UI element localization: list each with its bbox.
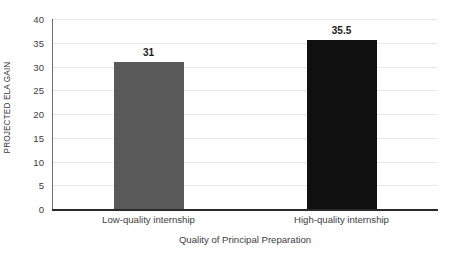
y-tick-label: 40 bbox=[33, 14, 44, 25]
y-tick-label: 10 bbox=[33, 156, 44, 167]
gridline bbox=[52, 114, 438, 115]
gridline bbox=[52, 185, 438, 186]
bar bbox=[307, 40, 377, 209]
y-tick-label: 35 bbox=[33, 37, 44, 48]
bar bbox=[114, 62, 184, 209]
bar-value-label: 35.5 bbox=[332, 25, 351, 36]
gridline bbox=[52, 162, 438, 163]
bar-chart: PROJECTED ELA GAIN 0510152025303540 3135… bbox=[0, 0, 452, 254]
x-axis-line bbox=[52, 209, 438, 211]
y-axis-tick-labels: 0510152025303540 bbox=[20, 14, 48, 210]
y-tick-label: 15 bbox=[33, 132, 44, 143]
y-tick-label: 30 bbox=[33, 61, 44, 72]
x-category-label: High-quality internship bbox=[294, 214, 389, 225]
y-tick-label: 20 bbox=[33, 109, 44, 120]
y-axis-title: PROJECTED ELA GAIN bbox=[0, 0, 16, 214]
gridline bbox=[52, 138, 438, 139]
y-axis-title-text: PROJECTED ELA GAIN bbox=[4, 61, 13, 153]
gridline bbox=[52, 90, 438, 91]
gridline bbox=[52, 19, 438, 20]
y-axis-line bbox=[52, 19, 53, 210]
x-category-label: Low-quality internship bbox=[102, 214, 195, 225]
y-tick-label: 25 bbox=[33, 85, 44, 96]
x-axis-title: Quality of Principal Preparation bbox=[52, 234, 438, 245]
bar-value-label: 31 bbox=[143, 47, 154, 58]
plot-area: 3135.5 bbox=[52, 19, 438, 209]
y-tick-label: 5 bbox=[39, 180, 44, 191]
gridline bbox=[52, 67, 438, 68]
y-tick-label: 0 bbox=[39, 204, 44, 215]
gridline bbox=[52, 43, 438, 44]
